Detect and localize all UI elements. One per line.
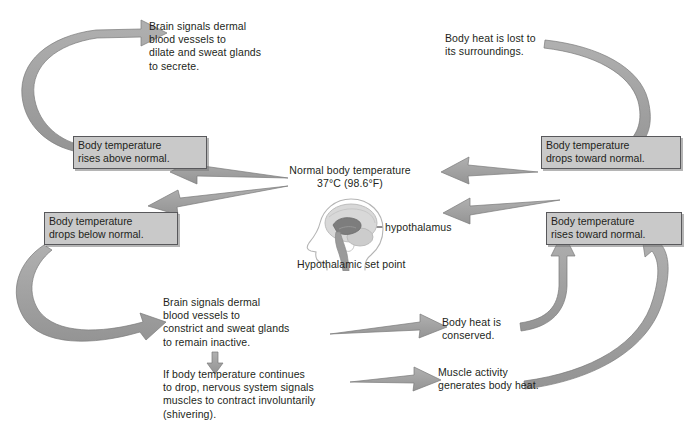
- step-text-heat-lost: Body heat is lost to its surroundings.: [445, 32, 595, 58]
- normal-temperature-label: Normal body temperature37°C (98.6°F): [274, 164, 426, 190]
- state-box-drops-toward-normal: Body temperature drops toward normal.: [541, 136, 681, 169]
- normal-temperature-line2: 37°C (98.6°F): [317, 177, 383, 189]
- step-text-constrict-no-sweat: Brain signals dermal blood vessels to co…: [163, 296, 333, 349]
- thermoregulation-feedback-diagram: Normal body temperature37°C (98.6°F) hyp…: [0, 0, 697, 429]
- arrow-rises-above-to-dilate: [22, 20, 167, 152]
- hypothalamus-label: hypothalamus: [385, 221, 452, 234]
- state-box-rises-above-normal: Body temperature rises above normal.: [73, 136, 207, 169]
- step-text-dilate-sweat: Brain signals dermal blood vessels to di…: [149, 20, 299, 73]
- normal-temperature-line1: Normal body temperature: [289, 164, 410, 176]
- step-text-heat-conserved: Body heat is conserved.: [442, 316, 582, 342]
- state-box-rises-toward-normal: Body temperature rises toward normal.: [546, 212, 682, 245]
- arrow-shivering-to-muscle-activity: [350, 367, 441, 391]
- arrow-rises-toward-to-center: [443, 198, 560, 224]
- step-text-shivering: If body temperature continues to drop, n…: [163, 368, 353, 421]
- arrow-drops-toward-to-center: [441, 157, 538, 184]
- hypothalamic-set-point-label: Hypothalamic set point: [297, 258, 406, 271]
- state-box-drops-below-normal: Body temperature drops below normal.: [44, 212, 178, 245]
- arrow-center-to-drops-below: [148, 186, 288, 215]
- arrow-drops-below-to-constrict: [16, 245, 166, 341]
- arrow-constrict-to-heat-conserved: [330, 314, 447, 338]
- step-text-muscle-activity: Muscle activity generates body heat.: [438, 366, 588, 392]
